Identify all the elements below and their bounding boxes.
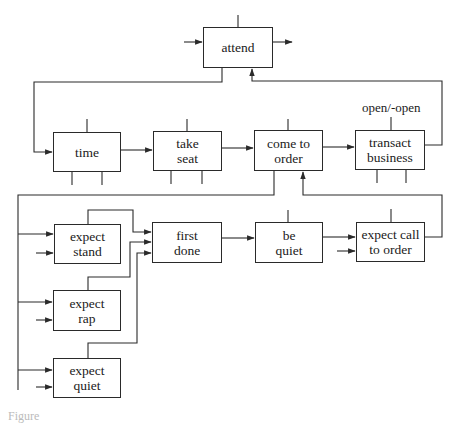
node-expect-stand: expect stand <box>54 224 121 264</box>
figure-caption: Figure <box>8 409 39 424</box>
node-be-quiet: be quiet <box>255 222 323 263</box>
node-first-done: first done <box>152 222 222 263</box>
node-expect-quiet: expect quiet <box>53 358 121 398</box>
node-take-seat: take seat <box>153 131 222 171</box>
node-expect-rap: expect rap <box>53 290 121 331</box>
node-expect-call-to-order: expect call to order <box>356 222 425 262</box>
node-come-to-order: come to order <box>254 130 323 171</box>
node-time: time <box>53 132 121 172</box>
node-transact-business: transact business <box>355 130 425 170</box>
node-attend: attend <box>203 27 273 68</box>
open-condition-label: open/-open <box>362 100 420 116</box>
